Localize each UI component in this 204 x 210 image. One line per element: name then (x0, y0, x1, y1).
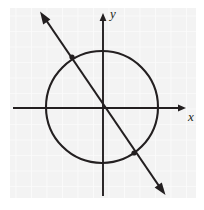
y-axis-label: y (108, 6, 116, 21)
intersection-point-lower-right (131, 150, 136, 155)
x-axis-label: x (187, 109, 194, 124)
graph-canvas: y x (0, 0, 204, 210)
intersection-point-upper-left (69, 54, 74, 59)
math-figure: y x (0, 0, 204, 210)
